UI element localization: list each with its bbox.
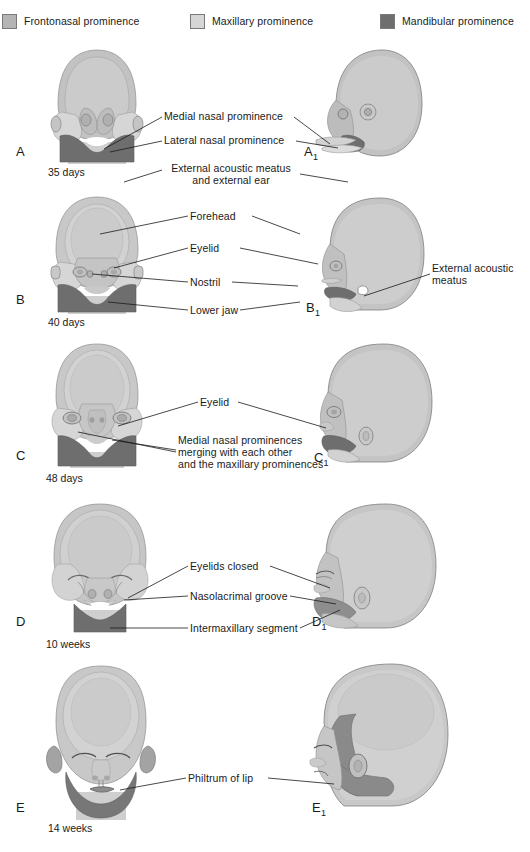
stage-letter-d1: D1 xyxy=(312,614,327,632)
legend-label: Mandibular prominence xyxy=(402,16,514,27)
legend: Frontonasal prominence Maxillary promine… xyxy=(0,0,530,44)
color-swatch-icon xyxy=(380,14,395,29)
legend-item-maxillary: Maxillary prominence xyxy=(190,14,313,29)
color-swatch-icon xyxy=(190,14,205,29)
color-swatch-icon xyxy=(2,14,17,29)
stage-caption-b: 40 days xyxy=(48,316,85,328)
legend-label: Frontonasal prominence xyxy=(24,16,139,27)
panel-stage-c: Eyelid Medial nasal prominences merging … xyxy=(0,340,530,500)
stage-letter-b: B xyxy=(16,292,25,307)
stage-caption-c: 48 days xyxy=(46,472,83,484)
callout-eyelid: Eyelid xyxy=(190,242,219,254)
callout-external-acoustic-meatus: External acoustic meatus and external ea… xyxy=(164,162,298,186)
stage-letter-e: E xyxy=(16,800,25,815)
callout-lateral-nasal-prominence: Lateral nasal prominence xyxy=(164,134,284,146)
leader-lines-stage-d xyxy=(0,500,530,660)
stage-letter-b1: B1 xyxy=(306,300,320,318)
stage-letter-a1: A1 xyxy=(304,144,318,162)
stage-letter-c1: C1 xyxy=(314,450,329,468)
stage-letter-e1: E1 xyxy=(312,800,326,818)
callout-forehead: Forehead xyxy=(190,210,236,222)
callout-eyelids-closed: Eyelids closed xyxy=(190,560,259,572)
panel-stage-e: Philtrum of lip E 14 weeks E1 xyxy=(0,660,530,852)
callout-medial-nasal-prominences-merging: Medial nasal prominences merging with ea… xyxy=(178,434,368,470)
panel-stage-d: Eyelids closed Nasolacrimal groove Inter… xyxy=(0,500,530,660)
callout-nasolacrimal-groove: Nasolacrimal groove xyxy=(190,590,288,602)
callout-external-acoustic-meatus-profile: External acoustic meatus xyxy=(432,262,528,286)
legend-label: Maxillary prominence xyxy=(212,16,313,27)
panel-stage-b: Forehead Eyelid Nostril Lower jaw Extern… xyxy=(0,192,530,340)
legend-item-frontonasal: Frontonasal prominence xyxy=(2,14,139,29)
stage-letter-d: D xyxy=(16,614,26,629)
callout-nostril: Nostril xyxy=(190,276,220,288)
callout-philtrum-of-lip: Philtrum of lip xyxy=(188,772,253,784)
callout-medial-nasal-prominence: Medial nasal prominence xyxy=(164,110,283,122)
callout-lower-jaw: Lower jaw xyxy=(190,304,238,316)
callout-eyelid-stage-c: Eyelid xyxy=(200,396,229,408)
legend-item-mandibular: Mandibular prominence xyxy=(380,14,514,29)
stage-caption-e: 14 weeks xyxy=(48,822,92,834)
stage-caption-a: 35 days xyxy=(48,166,85,178)
stage-caption-d: 10 weeks xyxy=(46,638,90,650)
stage-letter-c: C xyxy=(16,448,26,463)
stage-letter-a: A xyxy=(16,144,25,159)
callout-intermaxillary-segment: Intermaxillary segment xyxy=(190,622,298,634)
panel-stage-a: Medial nasal prominence Lateral nasal pr… xyxy=(0,44,530,192)
